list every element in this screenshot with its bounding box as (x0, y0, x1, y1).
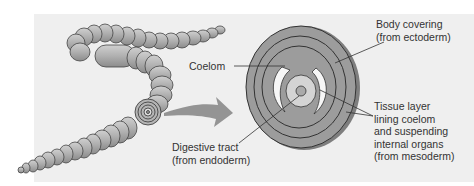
earthworm-lower-body (18, 117, 137, 173)
label-line: internal organs (374, 138, 455, 151)
label-body-covering: Body covering (from ectoderm) (376, 18, 451, 43)
label-line: Digestive tract (172, 141, 250, 154)
label-tissue-layer: Tissue layer lining coelom and suspendin… (374, 100, 455, 163)
label-line: lining coelom (374, 113, 455, 126)
cross-section (246, 26, 360, 150)
label-line: Body covering (376, 18, 451, 31)
label-digestive-tract: Digestive tract (from endoderm) (172, 141, 250, 166)
label-line: (from ectoderm) (376, 31, 451, 44)
magnify-arrow (164, 97, 233, 127)
label-line: (from mesoderm) (374, 150, 455, 163)
label-line: Tissue layer (374, 100, 455, 113)
label-line: and suspending (374, 125, 455, 138)
label-coelom: Coelom (189, 60, 225, 73)
label-line: (from endoderm) (172, 154, 250, 167)
earthworm-cut-end (135, 99, 161, 125)
label-line: Coelom (189, 60, 225, 73)
